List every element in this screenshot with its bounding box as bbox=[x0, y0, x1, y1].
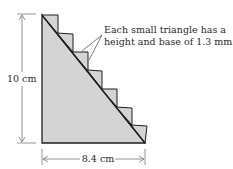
base-label: 8.4 cm bbox=[82, 153, 114, 164]
annotation-line-1: Each small triangle has a bbox=[104, 24, 226, 35]
height-label: 10 cm bbox=[7, 73, 36, 84]
annotation-line-2: height and base of 1.3 mm. bbox=[104, 36, 233, 47]
triangle-diagram: 10 cm 8.4 cm Each small triangle has a h… bbox=[0, 0, 233, 169]
